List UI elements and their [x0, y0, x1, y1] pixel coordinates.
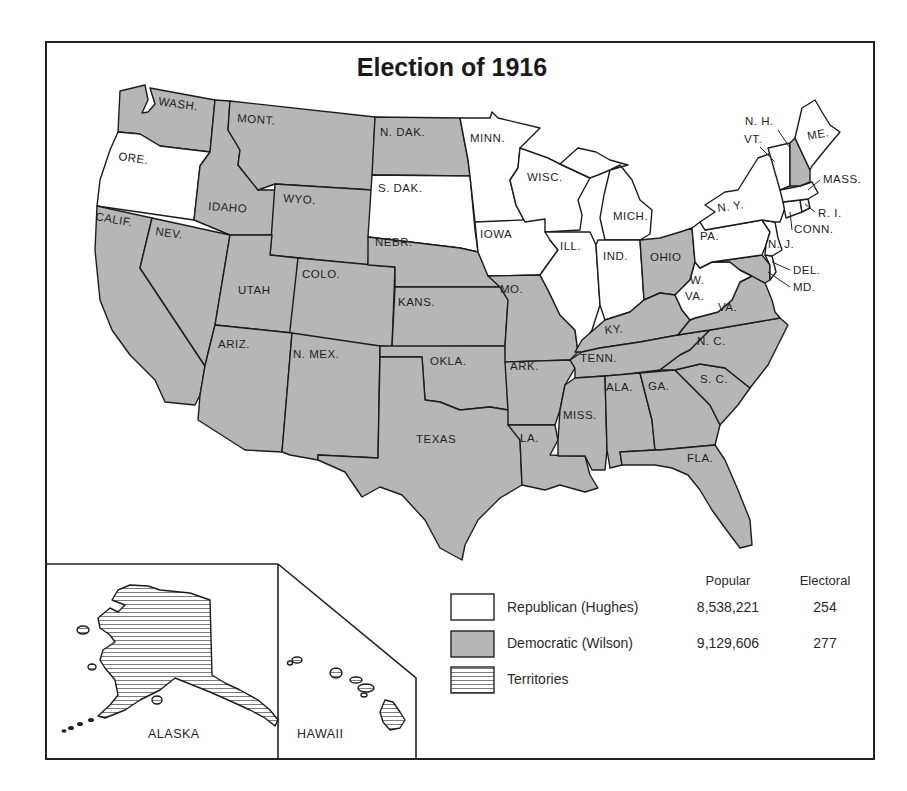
contiguous-us [95, 85, 840, 560]
label-ri: R. I. [818, 207, 842, 219]
label-okla: OKLA. [430, 355, 466, 367]
label-ohio: OHIO [650, 251, 681, 263]
legend-swatch-republican [451, 594, 494, 620]
label-wva-2: VA. [685, 290, 704, 302]
label-ind: IND. [603, 250, 628, 262]
legend-popular-democratic: 9,129,606 [697, 635, 759, 651]
label-ndak: N. DAK. [380, 126, 425, 138]
label-texas: TEXAS [416, 433, 456, 445]
label-mich: MICH. [613, 210, 648, 222]
label-nebr: NEBR. [375, 236, 413, 248]
label-nmex: N. MEX. [293, 348, 339, 360]
label-minn: MINN. [470, 132, 505, 144]
label-kans: KANS. [398, 296, 435, 308]
label-mo: MO. [500, 283, 523, 295]
label-ill: ILL. [560, 240, 581, 252]
label-ky: KY. [604, 322, 624, 336]
label-ga: GA. [648, 380, 669, 392]
alaska-shape[interactable] [98, 585, 278, 726]
label-wva-1: W. [690, 274, 704, 286]
state-miss[interactable] [558, 376, 607, 470]
state-fla[interactable] [620, 445, 752, 548]
label-utah: UTAH [238, 284, 270, 296]
map-title: Election of 1916 [357, 53, 547, 81]
label-del: DEL. [793, 264, 821, 276]
label-fla: FLA. [687, 452, 713, 464]
label-ala: ALA. [606, 381, 633, 393]
legend-swatch-democratic [451, 631, 494, 657]
election-map-figure: Election of 1916 [0, 0, 907, 791]
state-conn[interactable] [783, 200, 802, 218]
legend-popular-republican: 8,538,221 [697, 599, 759, 615]
label-ark: ARK. [510, 360, 539, 372]
label-wisc: WISC. [527, 171, 563, 183]
inset-alaska[interactable]: ALASKA [62, 585, 279, 741]
label-conn: CONN. [794, 223, 834, 235]
label-sc: S. C. [700, 373, 728, 385]
label-vt: VT. [744, 133, 762, 145]
label-iowa: IOWA [480, 228, 512, 240]
legend-electoral-republican: 254 [813, 599, 837, 615]
inset-hawaii[interactable]: HAWAII [288, 657, 406, 741]
legend-col-electoral: Electoral [800, 573, 851, 588]
label-nc: N. C. [697, 335, 726, 347]
alaska-label: ALASKA [148, 727, 200, 741]
label-tenn: TENN. [580, 352, 617, 364]
label-va: VA. [718, 301, 737, 313]
label-mass: MASS. [823, 173, 861, 185]
label-nj: N. J. [768, 238, 794, 250]
legend-label-territories: Territories [507, 671, 568, 687]
legend-label-democratic: Democratic (Wilson) [507, 635, 633, 651]
legend-swatch-territories [451, 667, 494, 693]
label-pa: PA. [700, 230, 719, 242]
label-miss: MISS. [563, 409, 597, 421]
legend: Popular Electoral Republican (Hughes) 8,… [451, 573, 850, 693]
label-la: LA. [520, 432, 539, 444]
legend-col-popular: Popular [706, 573, 751, 588]
label-colo: COLO. [302, 268, 340, 280]
hawaii-big-island[interactable] [380, 700, 405, 730]
map-canvas: Election of 1916 [0, 0, 907, 791]
label-nh: N. H. [745, 115, 774, 127]
label-wyo: WYO. [283, 192, 316, 206]
label-ariz: ARIZ. [218, 338, 250, 350]
legend-label-republican: Republican (Hughes) [507, 599, 639, 615]
legend-electoral-democratic: 277 [813, 635, 837, 651]
label-sdak: S. DAK. [378, 182, 422, 194]
state-ri[interactable] [800, 199, 810, 212]
hawaii-label: HAWAII [297, 727, 344, 741]
label-md: MD. [793, 281, 816, 293]
